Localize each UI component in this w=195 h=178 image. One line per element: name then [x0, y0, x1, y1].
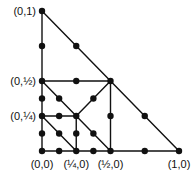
- node-dot: [73, 113, 79, 119]
- node-dot: [39, 130, 45, 136]
- node-dot: [56, 130, 62, 136]
- node-dot: [56, 113, 62, 119]
- coordinate-label: (0,1): [13, 5, 36, 17]
- coordinate-label: (½,0): [98, 158, 124, 170]
- node-dot: [39, 8, 45, 14]
- node-dot: [107, 148, 113, 154]
- coordinate-label: (0,¼): [10, 110, 36, 122]
- node-dot: [176, 148, 182, 154]
- triangle-subdivision-diagram: (0,1)(0,½)(0,¼)(0,0)(¼,0)(½,0)(1,0): [0, 0, 195, 178]
- node-dot: [73, 130, 79, 136]
- node-dot: [39, 43, 45, 49]
- coordinate-label: (0,0): [31, 158, 54, 170]
- coordinate-label: (¼,0): [63, 158, 89, 170]
- coordinate-label: (1,0): [168, 158, 191, 170]
- node-dot: [56, 95, 62, 101]
- node-dot: [39, 95, 45, 101]
- node-dot: [73, 43, 79, 49]
- node-dot: [39, 78, 45, 84]
- node-dot: [107, 78, 113, 84]
- coordinate-label: (0,½): [10, 75, 36, 87]
- node-dot: [142, 113, 148, 119]
- coordinate-labels: (0,1)(0,½)(0,¼)(0,0)(¼,0)(½,0)(1,0): [10, 5, 190, 170]
- node-dot: [39, 113, 45, 119]
- node-dot: [39, 148, 45, 154]
- node-dot: [90, 148, 96, 154]
- node-dot: [90, 130, 96, 136]
- node-dot: [73, 148, 79, 154]
- node-dot: [73, 78, 79, 84]
- node-dot: [56, 148, 62, 154]
- node-dot: [90, 95, 96, 101]
- node-dot: [107, 113, 113, 119]
- node-dot: [142, 148, 148, 154]
